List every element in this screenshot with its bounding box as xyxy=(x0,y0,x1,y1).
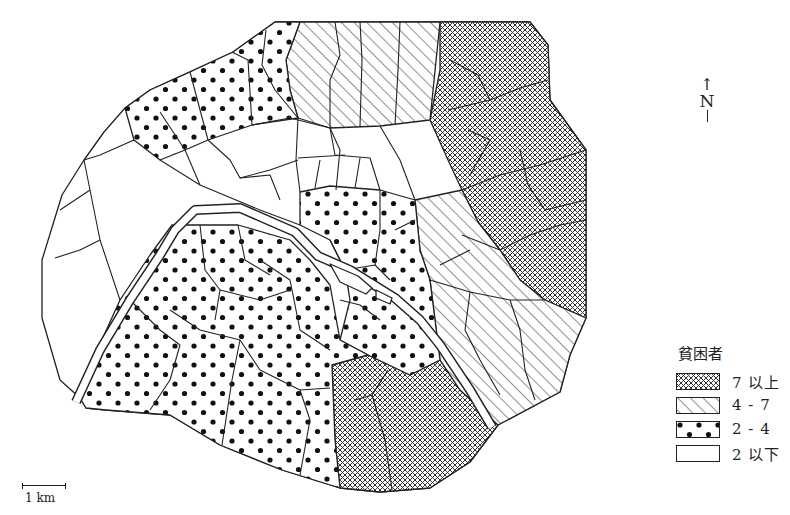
legend: 貧困者 7 以上 4 - 7 2 - 4 2 以下 xyxy=(676,342,780,465)
diagonal-swatch-icon xyxy=(676,397,720,414)
north-arrow: ↑ N xyxy=(697,78,717,122)
blank-swatch-icon xyxy=(676,445,720,462)
legend-label: 2 以下 xyxy=(732,443,780,464)
legend-item-crosshatch: 7 以上 xyxy=(676,369,780,393)
north-tick xyxy=(707,110,708,122)
legend-label: 2 - 4 xyxy=(732,420,771,438)
poverty-map xyxy=(0,0,790,515)
legend-title: 貧困者 xyxy=(678,342,780,363)
north-label: N xyxy=(697,92,717,110)
legend-item-blank: 2 以下 xyxy=(676,441,780,465)
crosshatch-swatch-icon xyxy=(676,373,720,390)
legend-label: 4 - 7 xyxy=(732,396,771,414)
legend-label: 7 以上 xyxy=(732,371,780,392)
zone-diagonal-north xyxy=(286,22,440,128)
scale-bar: 1 km xyxy=(22,483,66,505)
legend-item-diagonal: 4 - 7 xyxy=(676,393,780,417)
north-arrow-icon: ↑ xyxy=(697,78,717,92)
scale-bar-line xyxy=(22,483,66,489)
scale-label: 1 km xyxy=(25,491,66,505)
legend-item-dots: 2 - 4 xyxy=(676,417,780,441)
dots-swatch-icon xyxy=(676,421,720,438)
